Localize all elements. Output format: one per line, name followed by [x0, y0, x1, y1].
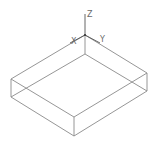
- x-axis-label: X: [71, 37, 77, 46]
- y-axis: [85, 35, 100, 43]
- drawing-viewport[interactable]: Z Y X: [0, 0, 156, 147]
- box-bottom-face: [11, 54, 147, 136]
- ucs-axis-icon: Z Y X: [70, 10, 105, 46]
- box-top-face: [11, 35, 147, 117]
- ucs-origin-icon: [84, 34, 86, 36]
- z-axis-label: Z: [87, 10, 93, 19]
- wireframe-box-drawing: Z Y X: [0, 0, 156, 147]
- y-axis-label: Y: [99, 35, 105, 44]
